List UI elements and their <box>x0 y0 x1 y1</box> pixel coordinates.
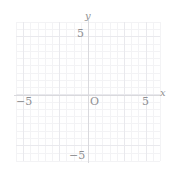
y-axis-tick-label-negative-5: −5 <box>69 150 85 161</box>
y-axis-name-label: y <box>85 11 91 21</box>
origin-label: O <box>90 96 99 107</box>
x-axis-name-label: x <box>160 88 166 98</box>
y-axis-tick-label-positive-5: 5 <box>77 28 84 39</box>
grid-and-axes <box>0 0 176 169</box>
x-axis-tick-label-negative-5: −5 <box>16 96 32 107</box>
x-axis-tick-label-positive-5: 5 <box>142 96 149 107</box>
coordinate-plane-figure: −5 5 5 −5 O x y <box>0 0 176 169</box>
grid-major-vertical-lines <box>24 22 147 161</box>
